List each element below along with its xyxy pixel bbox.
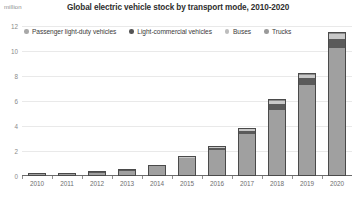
bar-segment bbox=[209, 150, 226, 175]
chart-container: million Global electric vehicle stock by… bbox=[0, 0, 356, 202]
stacked-bar-2019[interactable] bbox=[298, 73, 317, 176]
x-axis-label-2010: 2010 bbox=[22, 180, 52, 187]
x-axis-label-2012: 2012 bbox=[82, 180, 112, 187]
stacked-bar-2012[interactable] bbox=[88, 171, 107, 176]
x-axis-tickmark bbox=[172, 176, 173, 179]
x-axis-label-2015: 2015 bbox=[172, 180, 202, 187]
bar-segment bbox=[239, 134, 256, 175]
bar-slot-2014[interactable] bbox=[142, 26, 172, 176]
stacked-bar-2011[interactable] bbox=[58, 173, 77, 176]
bar-slot-2011[interactable] bbox=[52, 26, 82, 176]
bar-slot-2016[interactable] bbox=[202, 26, 232, 176]
chart-title: Global electric vehicle stock by transpo… bbox=[0, 3, 356, 12]
x-axis-tickmark bbox=[82, 176, 83, 179]
bar-slot-2019[interactable] bbox=[292, 26, 322, 176]
x-axis-tickmark bbox=[262, 176, 263, 179]
bar-segment bbox=[269, 110, 286, 175]
bar-slot-2013[interactable] bbox=[112, 26, 142, 176]
stacked-bar-2018[interactable] bbox=[268, 99, 287, 176]
x-axis-tickmark bbox=[292, 176, 293, 179]
bar-slot-2010[interactable] bbox=[22, 26, 52, 176]
bar-segment bbox=[29, 174, 46, 175]
bar-slot-2018[interactable] bbox=[262, 26, 292, 176]
bar-segment bbox=[59, 174, 76, 175]
x-axis-label-2018: 2018 bbox=[262, 180, 292, 187]
bar-segment bbox=[329, 48, 346, 176]
bar-segment bbox=[299, 78, 316, 85]
x-axis-label-2020: 2020 bbox=[322, 180, 352, 187]
x-axis-label-2016: 2016 bbox=[202, 180, 232, 187]
y-axis-tick-label: 6 bbox=[14, 98, 18, 105]
stacked-bar-2017[interactable] bbox=[238, 128, 257, 177]
bar-segment bbox=[149, 166, 166, 175]
stacked-bar-2013[interactable] bbox=[118, 169, 137, 176]
x-axis-tickmark bbox=[52, 176, 53, 179]
bar-segment bbox=[89, 173, 106, 175]
x-axis-label-2019: 2019 bbox=[292, 180, 322, 187]
stacked-bar-2010[interactable] bbox=[28, 173, 47, 176]
x-axis-tickmark bbox=[232, 176, 233, 179]
stacked-bar-2015[interactable] bbox=[178, 156, 197, 176]
stacked-bar-2020[interactable] bbox=[328, 32, 347, 176]
stacked-bar-2014[interactable] bbox=[148, 165, 167, 176]
y-axis-tick-label: 8 bbox=[14, 73, 18, 80]
bar-segment bbox=[299, 85, 316, 175]
x-axis-tickmark bbox=[142, 176, 143, 179]
bar-slot-2020[interactable] bbox=[322, 26, 352, 176]
x-axis-label-2014: 2014 bbox=[142, 180, 172, 187]
x-axis-labels: 2010201120122013201420152016201720182019… bbox=[22, 180, 352, 187]
bar-segment bbox=[179, 158, 196, 175]
bar-segment bbox=[119, 171, 136, 176]
x-axis-tickmark bbox=[112, 176, 113, 179]
bar-slot-2015[interactable] bbox=[172, 26, 202, 176]
bar-group bbox=[22, 26, 352, 176]
x-axis-tickmark bbox=[322, 176, 323, 179]
y-axis-tick-label: 2 bbox=[14, 148, 18, 155]
bar-slot-2017[interactable] bbox=[232, 26, 262, 176]
y-axis-tick-label: 12 bbox=[11, 23, 18, 30]
plot-area: 024681012 bbox=[22, 26, 352, 176]
stacked-bar-2016[interactable] bbox=[208, 146, 227, 176]
x-axis-tickmark bbox=[22, 176, 23, 179]
y-axis-tick-label: 0 bbox=[14, 173, 18, 180]
x-axis-label-2011: 2011 bbox=[52, 180, 82, 187]
x-axis-label-2017: 2017 bbox=[232, 180, 262, 187]
x-axis-label-2013: 2013 bbox=[112, 180, 142, 187]
y-axis-tick-label: 4 bbox=[14, 123, 18, 130]
y-axis-tick-label: 10 bbox=[11, 48, 18, 55]
bar-segment bbox=[329, 39, 346, 48]
bar-slot-2012[interactable] bbox=[82, 26, 112, 176]
x-axis-tickmark bbox=[202, 176, 203, 179]
